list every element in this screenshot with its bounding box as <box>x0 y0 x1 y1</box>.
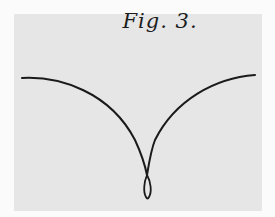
curve-right-branch <box>147 75 255 175</box>
figure-diagram <box>0 0 275 217</box>
curve-left-branch <box>22 78 147 175</box>
curve-bottom-loop <box>144 175 151 199</box>
